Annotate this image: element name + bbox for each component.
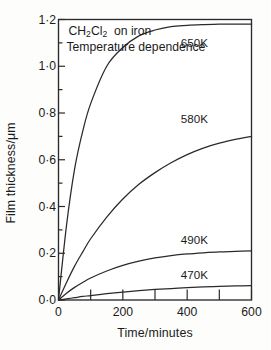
x-tick-label: 200 [100, 306, 146, 318]
x-tick-label: 0 [36, 306, 82, 318]
chart-figure: Film thickness/μm 0·00·20·40·60·81·01·2 … [0, 0, 270, 350]
x-axis-label: Time/minutes [58, 326, 252, 340]
x-tick-label: 400 [164, 306, 210, 318]
x-axis-tick-labels: 0200400600 [0, 0, 270, 350]
x-tick-label: 600 [229, 306, 271, 318]
